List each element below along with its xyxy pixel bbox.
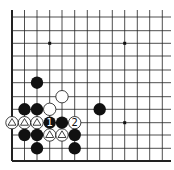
stone-disc xyxy=(31,142,43,154)
stone-disc xyxy=(56,91,68,103)
black-stone: 1 xyxy=(44,117,56,129)
black-stone xyxy=(31,142,43,154)
white-stone: 2 xyxy=(69,117,81,129)
black-stone xyxy=(18,103,30,115)
stone-disc xyxy=(94,103,106,115)
white-stone xyxy=(44,103,56,115)
stone-disc xyxy=(18,103,30,115)
move-number: 2 xyxy=(72,117,78,128)
black-stone xyxy=(18,129,30,141)
black-stone xyxy=(56,117,68,129)
star-point xyxy=(48,42,51,45)
white-stone xyxy=(56,129,68,141)
white-stone xyxy=(44,129,56,141)
stone-disc xyxy=(56,117,68,129)
go-board: 12 xyxy=(0,0,174,170)
stone-disc xyxy=(69,129,81,141)
stone-disc xyxy=(18,129,30,141)
stone-disc xyxy=(44,103,56,115)
star-point xyxy=(123,121,126,124)
black-stone xyxy=(69,129,81,141)
stone-disc xyxy=(31,129,43,141)
white-stone xyxy=(6,117,18,129)
move-number: 1 xyxy=(47,117,53,128)
black-stone xyxy=(94,103,106,115)
stones: 12 xyxy=(6,77,106,155)
white-stone xyxy=(31,117,43,129)
white-stone xyxy=(18,117,30,129)
star-point xyxy=(123,42,126,45)
black-stone xyxy=(69,142,81,154)
black-stone xyxy=(31,129,43,141)
stone-disc xyxy=(31,77,43,89)
black-stone xyxy=(31,77,43,89)
stone-disc xyxy=(31,103,43,115)
white-stone xyxy=(56,91,68,103)
black-stone xyxy=(31,103,43,115)
stone-disc xyxy=(69,142,81,154)
